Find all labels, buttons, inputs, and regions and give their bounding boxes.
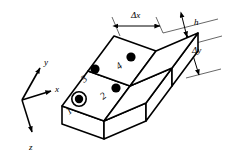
dimension-label-dy: Δy bbox=[191, 45, 201, 55]
axis-label-z: z bbox=[28, 142, 33, 152]
node-1-dot bbox=[75, 95, 83, 103]
figure-canvas: y x z 1 2 3 4 Δx h Δy bbox=[0, 0, 226, 157]
dimension-label-h: h bbox=[194, 17, 199, 27]
axis-z-line bbox=[22, 100, 32, 132]
node-3-dot bbox=[90, 64, 99, 73]
coordinate-axes bbox=[22, 68, 51, 132]
axis-label-y: y bbox=[43, 57, 48, 67]
cell-diagram: y x z 1 2 3 4 Δx h Δy bbox=[0, 0, 226, 157]
node-4-dot bbox=[126, 52, 135, 61]
node-2-dot bbox=[111, 83, 120, 92]
axis-label-x: x bbox=[54, 84, 59, 94]
dimension-label-dx: Δx bbox=[130, 10, 140, 20]
